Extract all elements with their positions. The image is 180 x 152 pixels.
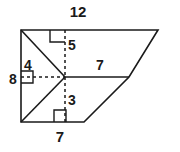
dimension-label-middle-horizontal: 7: [96, 57, 104, 73]
right-angle-icon-bottom: [54, 110, 66, 122]
diagonal-bottom-left-to-center: [21, 77, 65, 122]
dimension-label-left-upper: 4: [24, 57, 32, 73]
outer-shape-outline: [21, 30, 158, 122]
geometry-canvas: 12 5 4 8 7 3 7: [0, 0, 180, 152]
dimension-label-upper-vertical: 5: [68, 37, 76, 53]
dimension-label-top: 12: [70, 3, 87, 20]
geometry-diagram: 12 5 4 8 7 3 7: [0, 0, 180, 152]
right-angle-icon-top: [50, 30, 65, 42]
dimension-label-bottom: 7: [56, 128, 64, 145]
dimension-label-left-side: 8: [9, 71, 17, 87]
dimension-label-lower-vertical: 3: [68, 92, 76, 108]
